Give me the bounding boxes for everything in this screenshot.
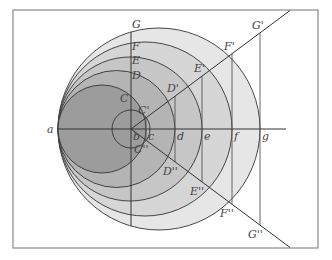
- label-lower-1: D'': [162, 165, 178, 178]
- label-lower-3: F'': [219, 207, 234, 220]
- label-G: G: [132, 18, 141, 31]
- label-F: F: [131, 40, 140, 53]
- label-upper-0: C': [138, 104, 149, 117]
- label-lower-2: E'': [189, 185, 204, 198]
- label-e: e: [204, 130, 211, 143]
- label-b: b: [133, 130, 140, 143]
- label-d: d: [177, 130, 184, 143]
- label-E: E: [131, 54, 140, 67]
- label-C: C: [120, 92, 129, 105]
- label-upper-2: E': [193, 62, 205, 75]
- label-c: c: [148, 130, 154, 143]
- label-D: D: [131, 69, 141, 82]
- geometry-diagram: abcdefgGFEDCC'D'E'F'G'C''D''E''F''G'': [0, 0, 332, 260]
- label-lower-0: C'': [134, 143, 148, 156]
- label-lower-4: G'': [248, 228, 263, 241]
- label-upper-1: D': [166, 82, 179, 95]
- label-a: a: [47, 123, 54, 136]
- label-upper-3: F': [223, 40, 235, 53]
- label-g: g: [262, 130, 269, 143]
- label-upper-4: G': [252, 19, 264, 32]
